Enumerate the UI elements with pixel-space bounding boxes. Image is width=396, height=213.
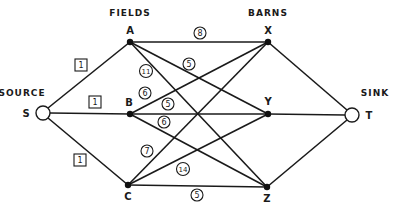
barn-node-z xyxy=(264,184,270,190)
svg-text:1: 1 xyxy=(77,156,82,165)
svg-text:14: 14 xyxy=(179,166,188,174)
node-label-x: X xyxy=(264,25,272,36)
node-label-c: C xyxy=(124,191,131,202)
svg-text:6: 6 xyxy=(161,118,166,127)
capacity-label-s-c: 1 xyxy=(74,154,86,166)
field-node-c xyxy=(125,182,131,188)
edges xyxy=(48,42,347,187)
capacity-label-a-z: 11 xyxy=(140,65,153,78)
node-label-z: Z xyxy=(263,193,270,204)
svg-text:11: 11 xyxy=(142,68,151,76)
edge-y-t xyxy=(268,114,345,115)
barn-node-x xyxy=(265,39,271,45)
svg-text:5: 5 xyxy=(165,100,170,109)
node-label-a: A xyxy=(126,25,134,36)
svg-text:1: 1 xyxy=(92,98,97,107)
capacity-label-c-y: 14 xyxy=(177,163,190,176)
node-label-y: Y xyxy=(263,96,272,107)
sink-heading: SINK xyxy=(361,88,389,98)
capacity-label-b-z: 6 xyxy=(158,116,170,128)
capacity-label-s-b: 1 xyxy=(89,96,101,108)
source-node xyxy=(36,106,50,120)
capacity-label-c-z: 5 xyxy=(191,189,203,201)
edge-z-t xyxy=(267,120,347,187)
capacity-label-a-x: 8 xyxy=(194,27,206,39)
edge-x-t xyxy=(268,42,347,110)
network-flow-diagram: FIELDS BARNS SOURCE SINK S A B C X Y Z T… xyxy=(0,0,396,213)
field-node-b xyxy=(127,111,133,117)
capacity-label-b-x: 6 xyxy=(139,87,151,99)
svg-text:7: 7 xyxy=(144,147,149,156)
node-label-t: T xyxy=(366,110,373,121)
capacity-label-s-a: 1 xyxy=(75,59,87,71)
svg-text:1: 1 xyxy=(78,61,83,70)
edge-c-z xyxy=(128,185,267,187)
svg-text:8: 8 xyxy=(197,29,202,38)
capacity-label-c-x: 7 xyxy=(141,145,153,157)
source-heading: SOURCE xyxy=(0,88,46,98)
svg-text:5: 5 xyxy=(194,191,199,200)
node-label-s: S xyxy=(22,108,29,119)
capacity-label-a-y: 5 xyxy=(183,58,195,70)
sink-node xyxy=(345,108,359,122)
svg-text:6: 6 xyxy=(142,89,147,98)
svg-text:5: 5 xyxy=(186,60,191,69)
edge-s-b xyxy=(50,113,130,114)
fields-heading: FIELDS xyxy=(109,8,150,18)
node-label-b: B xyxy=(125,97,133,108)
barn-node-y xyxy=(265,111,271,117)
barns-heading: BARNS xyxy=(248,8,288,18)
capacity-label-b-y: 5 xyxy=(162,98,174,110)
edge-s-c xyxy=(48,118,128,185)
field-node-a xyxy=(127,39,133,45)
